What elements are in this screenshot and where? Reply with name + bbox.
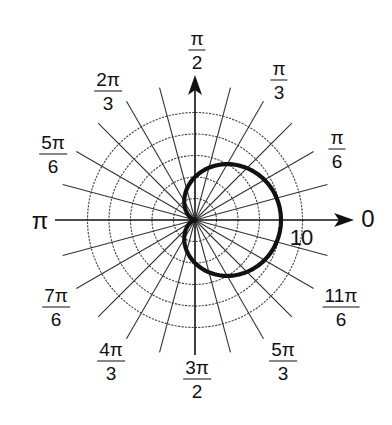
polar-chart: 0 π 10 π 2 π 3 π 6 2π 3 5π 6 7π 6 4π 3 3… — [0, 0, 392, 425]
grid-spoke — [195, 101, 264, 220]
angle-label-11pi-over-6: 11π 6 — [323, 286, 360, 329]
ring-label-10: 10 — [290, 227, 312, 249]
angle-label-pi-over-6: π 6 — [328, 128, 345, 171]
grid-spoke — [195, 220, 264, 339]
grid-spoke — [160, 220, 195, 352]
grid-spoke — [195, 220, 230, 352]
grid-spoke — [76, 220, 195, 289]
grid-spoke — [76, 152, 195, 221]
angle-label-pi-over-3: π 3 — [270, 59, 287, 102]
angle-label-pi: π — [32, 209, 49, 233]
grid-spoke — [195, 152, 314, 221]
grid-spoke — [160, 88, 195, 220]
angle-label-0: 0 — [361, 207, 374, 231]
angle-label-7pi-over-6: 7π 6 — [42, 286, 70, 329]
angle-label-3pi-over-2: 3π 2 — [183, 358, 211, 401]
angle-label-5pi-over-6: 5π 6 — [39, 133, 67, 176]
grid-spoke — [98, 220, 195, 317]
grid-spoke — [63, 185, 195, 220]
grid-spoke — [63, 220, 195, 255]
angle-label-pi-over-2: π 2 — [188, 29, 205, 72]
angle-label-5pi-over-3: 5π 3 — [269, 340, 297, 383]
angle-label-2pi-over-3: 2π 3 — [94, 70, 122, 113]
angle-label-4pi-over-3: 4π 3 — [97, 340, 125, 383]
grid-spoke — [98, 123, 195, 220]
grid-spoke — [195, 88, 230, 220]
grid-spoke — [195, 185, 327, 220]
